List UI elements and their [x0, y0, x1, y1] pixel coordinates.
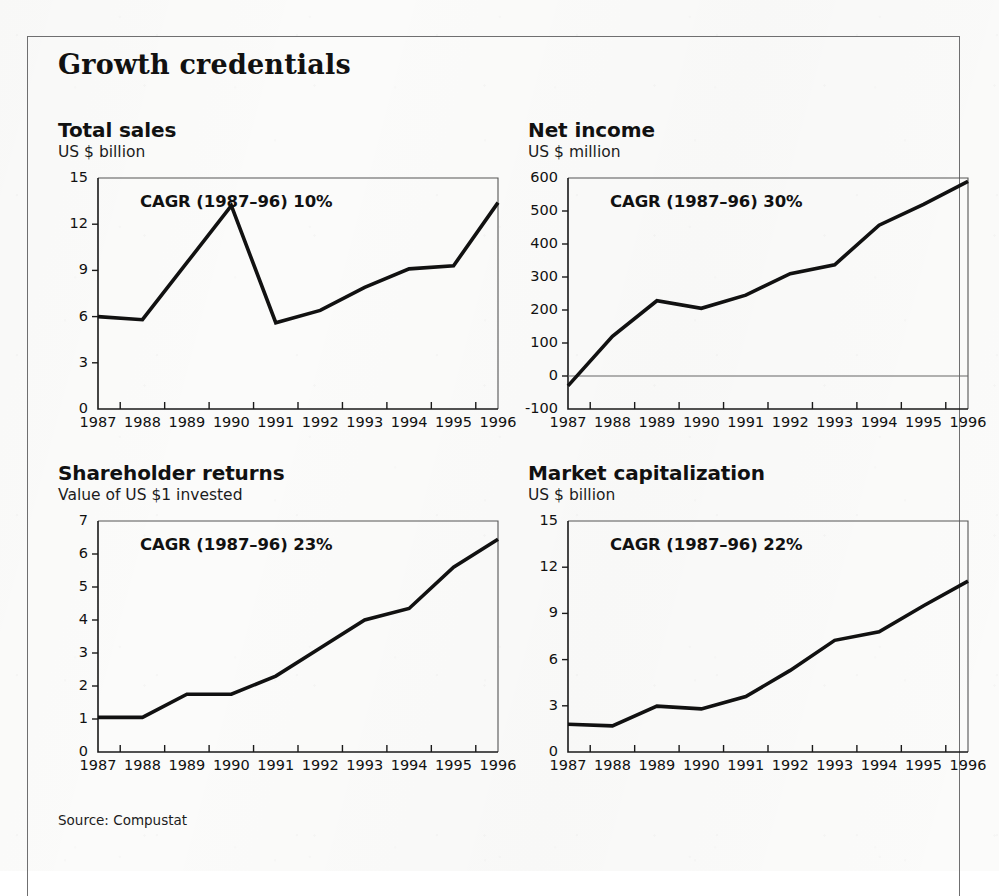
cagr-annotation-total-sales: CAGR (1987–96) 10% [140, 192, 333, 211]
cagr-annotation-shareholder-returns: CAGR (1987–96) 23% [140, 535, 333, 554]
svg-text:5: 5 [79, 578, 88, 594]
source-note: Source: Compustat [58, 812, 187, 828]
svg-text:1991: 1991 [257, 757, 294, 773]
svg-text:1992: 1992 [302, 757, 339, 773]
plot-area-shareholder-returns: 0123456719871988198919901991199219931994… [58, 513, 500, 778]
svg-text:1988: 1988 [124, 414, 161, 430]
svg-text:1994: 1994 [861, 757, 898, 773]
svg-text:1990: 1990 [213, 414, 250, 430]
svg-text:1996: 1996 [480, 757, 517, 773]
svg-text:1996: 1996 [950, 414, 987, 430]
svg-text:100: 100 [530, 334, 558, 350]
svg-text:1990: 1990 [683, 757, 720, 773]
svg-text:500: 500 [530, 202, 558, 218]
svg-text:1994: 1994 [391, 757, 428, 773]
svg-text:4: 4 [79, 611, 88, 627]
svg-text:1990: 1990 [213, 757, 250, 773]
svg-text:1: 1 [79, 710, 88, 726]
svg-text:1987: 1987 [80, 757, 117, 773]
chart-title-net-income: Net income [528, 118, 970, 142]
plot-area-market-capitalization: 0369121519871988198919901991199219931994… [528, 513, 970, 778]
svg-text:7: 7 [79, 512, 88, 528]
svg-text:1987: 1987 [550, 757, 587, 773]
chart-title-total-sales: Total sales [58, 118, 500, 142]
svg-text:9: 9 [79, 261, 88, 277]
svg-text:400: 400 [530, 235, 558, 251]
chart-subtitle-market-capitalization: US $ billion [528, 486, 970, 504]
svg-text:15: 15 [70, 169, 88, 185]
svg-text:1993: 1993 [816, 414, 853, 430]
svg-text:9: 9 [549, 604, 558, 620]
svg-text:6: 6 [79, 308, 88, 324]
svg-text:15: 15 [540, 512, 558, 528]
svg-text:1987: 1987 [80, 414, 117, 430]
svg-text:1996: 1996 [950, 757, 987, 773]
chart-panel-total-sales: Total sales US $ billion 036912151987198… [58, 118, 500, 435]
svg-text:1992: 1992 [772, 757, 809, 773]
svg-text:1989: 1989 [638, 414, 675, 430]
svg-text:200: 200 [530, 301, 558, 317]
svg-text:3: 3 [79, 354, 88, 370]
svg-text:600: 600 [530, 169, 558, 185]
plot-area-total-sales: 0369121519871988198919901991199219931994… [58, 170, 500, 435]
svg-text:3: 3 [79, 644, 88, 660]
svg-text:1989: 1989 [168, 757, 205, 773]
svg-text:1994: 1994 [391, 414, 428, 430]
svg-text:1993: 1993 [816, 757, 853, 773]
svg-text:3: 3 [549, 697, 558, 713]
chart-subtitle-shareholder-returns: Value of US $1 invested [58, 486, 500, 504]
svg-text:6: 6 [549, 651, 558, 667]
svg-text:1995: 1995 [905, 414, 942, 430]
chart-panel-net-income: Net income US $ million -100010020030040… [528, 118, 970, 435]
svg-text:1988: 1988 [124, 757, 161, 773]
svg-text:1995: 1995 [905, 757, 942, 773]
svg-text:1995: 1995 [435, 414, 472, 430]
svg-text:1990: 1990 [683, 414, 720, 430]
svg-text:1991: 1991 [727, 757, 764, 773]
svg-text:300: 300 [530, 268, 558, 284]
svg-text:1987: 1987 [550, 414, 587, 430]
svg-text:1993: 1993 [346, 757, 383, 773]
svg-text:6: 6 [79, 545, 88, 561]
chart-panel-market-capitalization: Market capitalization US $ billion 03691… [528, 461, 970, 778]
chart-title-shareholder-returns: Shareholder returns [58, 461, 500, 485]
svg-text:1989: 1989 [638, 757, 675, 773]
svg-text:1991: 1991 [727, 414, 764, 430]
svg-text:12: 12 [540, 558, 558, 574]
chart-subtitle-net-income: US $ million [528, 143, 970, 161]
svg-text:2: 2 [79, 677, 88, 693]
cagr-annotation-market-capitalization: CAGR (1987–96) 22% [610, 535, 803, 554]
plot-area-net-income: -100010020030040050060019871988198919901… [528, 170, 970, 435]
svg-text:12: 12 [70, 215, 88, 231]
svg-text:1988: 1988 [594, 414, 631, 430]
svg-text:1989: 1989 [168, 414, 205, 430]
svg-text:1994: 1994 [861, 414, 898, 430]
cagr-annotation-net-income: CAGR (1987–96) 30% [610, 192, 803, 211]
svg-text:1993: 1993 [346, 414, 383, 430]
svg-text:1995: 1995 [435, 757, 472, 773]
chart-subtitle-total-sales: US $ billion [58, 143, 500, 161]
chart-panel-shareholder-returns: Shareholder returns Value of US $1 inves… [58, 461, 500, 778]
svg-text:1992: 1992 [302, 414, 339, 430]
svg-text:0: 0 [549, 367, 558, 383]
svg-text:1996: 1996 [480, 414, 517, 430]
svg-text:1992: 1992 [772, 414, 809, 430]
page-title: Growth credentials [58, 49, 351, 80]
svg-text:1991: 1991 [257, 414, 294, 430]
svg-text:1988: 1988 [594, 757, 631, 773]
chart-title-market-capitalization: Market capitalization [528, 461, 970, 485]
